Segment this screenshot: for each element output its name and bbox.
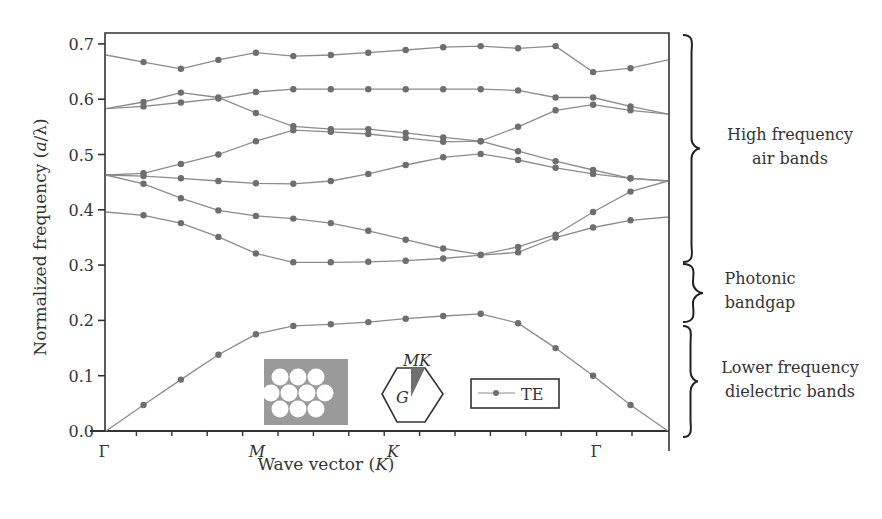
- band-marker: [253, 180, 259, 186]
- band-marker: [440, 255, 446, 261]
- annotation-text: dielectric bands: [725, 382, 855, 401]
- band-marker: [478, 151, 484, 157]
- band-marker: [515, 157, 521, 163]
- band-marker: [440, 139, 446, 145]
- band-marker: [403, 86, 409, 92]
- band-marker: [403, 316, 409, 322]
- irreducible-wedge: [411, 368, 425, 397]
- band-marker: [365, 50, 371, 56]
- band-marker: [328, 321, 334, 327]
- band-marker: [590, 69, 596, 75]
- band-marker: [440, 245, 446, 251]
- annotation-text: Lower frequency: [721, 358, 859, 377]
- legend-label-te: TE: [521, 385, 543, 404]
- band-marker: [290, 323, 296, 329]
- band-line: [106, 154, 668, 184]
- annotation-text: bandgap: [725, 293, 795, 312]
- band-marker: [552, 94, 558, 100]
- band-marker: [178, 376, 184, 382]
- band-marker: [290, 259, 296, 265]
- band-marker: [178, 175, 184, 181]
- band-marker: [253, 110, 259, 116]
- band-marker: [328, 259, 334, 265]
- band-marker: [590, 373, 596, 379]
- legend: TE: [471, 379, 559, 408]
- band-marker: [590, 102, 596, 108]
- band-marker: [403, 47, 409, 53]
- band-marker: [215, 234, 221, 240]
- band-marker: [515, 249, 521, 255]
- band-marker: [140, 212, 146, 218]
- annotation-text: air bands: [752, 149, 828, 168]
- air-hole: [281, 385, 298, 402]
- band-marker: [253, 138, 259, 144]
- band-line: [106, 46, 668, 72]
- band-marker: [328, 178, 334, 184]
- air-hole: [272, 369, 289, 386]
- band-marker: [290, 53, 296, 59]
- band-marker: [515, 124, 521, 130]
- air-hole: [308, 401, 325, 418]
- plot-frame: [105, 33, 669, 451]
- band-marker: [552, 165, 558, 171]
- y-tick-label: 0.3: [69, 256, 94, 275]
- band-marker: [478, 311, 484, 317]
- band-marker: [478, 86, 484, 92]
- x-symmetry-label: Γ: [590, 442, 601, 461]
- bz-label-m: M: [402, 351, 420, 370]
- air-hole: [290, 401, 307, 418]
- band-marker: [627, 65, 633, 71]
- band-marker: [478, 138, 484, 144]
- x-axis-title: Wave vector (K): [258, 454, 395, 474]
- band-marker: [552, 234, 558, 240]
- band-marker: [253, 213, 259, 219]
- band-marker: [253, 331, 259, 337]
- band-marker: [627, 402, 633, 408]
- band-marker: [590, 209, 596, 215]
- band-marker: [365, 86, 371, 92]
- band-marker: [515, 320, 521, 326]
- band-line: [106, 89, 668, 114]
- band-marker: [440, 313, 446, 319]
- band-marker: [552, 107, 558, 113]
- y-tick-label: 0.4: [69, 201, 94, 220]
- band-marker: [328, 129, 334, 135]
- air-hole: [272, 401, 289, 418]
- band-lines: [106, 43, 668, 431]
- band-marker: [215, 57, 221, 63]
- band-marker: [328, 52, 334, 58]
- band-marker: [365, 228, 371, 234]
- band-marker: [403, 258, 409, 264]
- band-marker: [365, 319, 371, 325]
- band-marker: [178, 66, 184, 72]
- band-marker: [552, 43, 558, 49]
- band-marker: [515, 45, 521, 51]
- band-marker: [627, 217, 633, 223]
- band-marker: [140, 59, 146, 65]
- y-tick-label: 0.1: [69, 367, 94, 386]
- band-marker: [215, 95, 221, 101]
- band-marker: [290, 86, 296, 92]
- band-marker: [403, 237, 409, 243]
- band-marker: [627, 103, 633, 109]
- brillouin-zone-inset: M K G: [382, 351, 443, 422]
- band-line: [106, 93, 668, 142]
- y-axis-title: Normalized frequency (a/λ): [30, 118, 50, 355]
- bz-label-k: K: [418, 351, 432, 370]
- y-tick-label: 0.6: [69, 90, 94, 109]
- band-marker: [515, 244, 521, 250]
- insets: M K G TE: [263, 351, 560, 425]
- band-series: [106, 86, 668, 114]
- air-hole: [299, 385, 316, 402]
- curly-brace-icon: [683, 264, 703, 322]
- band-marker: [552, 158, 558, 164]
- band-marker: [328, 220, 334, 226]
- band-marker: [440, 154, 446, 160]
- band-diagram-chart: 0.00.10.20.30.40.50.60.7 ΓMKΓ M K G TE W…: [0, 0, 882, 519]
- band-marker: [215, 178, 221, 184]
- y-axis: 0.00.10.20.30.40.50.60.7: [69, 35, 105, 441]
- band-marker: [253, 89, 259, 95]
- band-marker: [478, 43, 484, 49]
- band-line: [106, 314, 668, 431]
- band-series: [106, 127, 668, 182]
